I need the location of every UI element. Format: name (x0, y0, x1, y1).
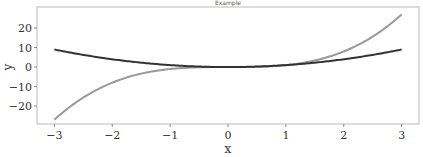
x-axis-label: x (225, 142, 232, 156)
x-tick-label: 3 (398, 129, 405, 142)
y-tick-label: −20 (9, 100, 32, 113)
y-tick-label: −10 (9, 81, 32, 94)
x-axis: −3−2−10123 (46, 124, 405, 142)
plot-area (37, 7, 419, 124)
chart: Example −3−2−10123 −20−1001020 x y (0, 0, 423, 157)
y-tick-label: 20 (18, 22, 32, 35)
y-axis-label: y (1, 63, 15, 71)
x-tick-label: −3 (46, 129, 62, 142)
x-tick-label: 0 (225, 129, 232, 142)
y-tick-label: 10 (18, 42, 32, 55)
x-tick-label: −1 (162, 129, 178, 142)
chart-title: Example (215, 0, 241, 7)
x-tick-label: 1 (282, 129, 289, 142)
x-tick-label: −2 (104, 129, 120, 142)
x-tick-label: 2 (340, 129, 347, 142)
y-tick-label: 0 (25, 61, 32, 74)
